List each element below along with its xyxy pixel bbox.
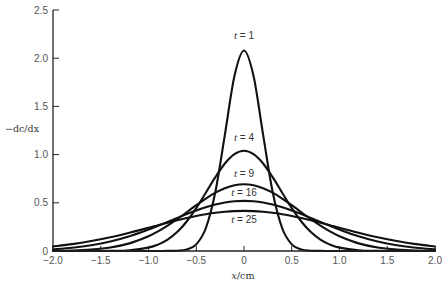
curve-label-value: = 16: [234, 187, 257, 198]
curve-label-t-25: t = 25: [231, 213, 257, 225]
curve-t-16: [53, 201, 435, 249]
x-tick-label: 1.5: [380, 255, 394, 266]
y-axis-title: −dc/dx: [5, 123, 40, 134]
curve-label-value: = 4: [237, 132, 254, 143]
x-axis-title-unit: /cm: [237, 270, 255, 281]
y-tick-label: 0.5: [34, 197, 48, 208]
curve-label-value: = 25: [234, 214, 257, 225]
x-tick-label: 2.0: [428, 255, 442, 266]
x-tick-label: −2.0: [43, 255, 63, 266]
curve-label-value: = 9: [237, 168, 254, 179]
y-tick-label: 1.0: [34, 149, 48, 160]
y-tick-label: 1.5: [34, 101, 48, 112]
x-tick-label: −0.5: [186, 255, 206, 266]
y-tick-label: 2.5: [34, 5, 48, 16]
x-tick-label: 1.0: [333, 255, 347, 266]
x-axis-title: x/cm: [232, 270, 255, 281]
x-tick-label: −1.0: [139, 255, 159, 266]
curve-label-t-16: t = 16: [231, 186, 257, 198]
curve-label-value: = 1: [237, 30, 254, 41]
curve-labels: t = 1t = 4t = 9t = 16t = 25: [231, 29, 257, 225]
x-tick-label: 0: [241, 255, 247, 266]
x-tick-label: −1.5: [91, 255, 111, 266]
diffusion-gradient-chart: t = 1t = 4t = 9t = 16t = 25 00.51.01.52.…: [0, 0, 445, 284]
curve-label-t-1: t = 1: [234, 29, 254, 41]
x-tick-label: 0.5: [285, 255, 299, 266]
y-tick-label: 2.0: [34, 53, 48, 64]
curve-label-t-9: t = 9: [234, 167, 254, 179]
curve-label-t-4: t = 4: [234, 131, 254, 143]
